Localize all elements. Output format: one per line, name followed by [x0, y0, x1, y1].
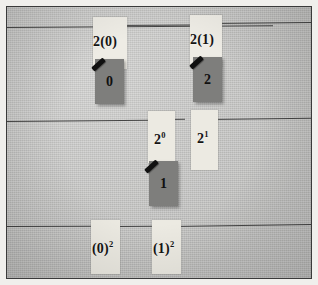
label-two-pow-one-exponent: 1: [204, 129, 208, 139]
ledge-line-middle-left: [6, 120, 151, 122]
card-result-zero-value: 0: [106, 75, 113, 89]
label-two-times-zero: 2(0): [93, 35, 117, 49]
screenshot-root: 2(0) 0 2(1) 2 20 21 1: [0, 0, 318, 285]
ledge-line-bottom-center: [117, 226, 155, 227]
ledge-line-bottom-right: [173, 224, 312, 227]
photo-frame: 2(0) 0 2(1) 2 20 21 1: [6, 6, 312, 279]
ledge-line-top-right: [212, 22, 312, 24]
label-two-times-one: 2(1): [190, 33, 214, 47]
card-result-two-value: 2: [204, 73, 211, 87]
label-two-pow-zero: 20: [154, 133, 166, 147]
label-two-pow-zero-exponent: 0: [161, 130, 165, 140]
label-zero-squared-exponent: 2: [109, 239, 113, 249]
label-two-times-one-text: 2(1): [190, 32, 214, 47]
label-two-times-zero-text: 2(0): [93, 34, 117, 49]
label-zero-squared-base: (0): [92, 241, 109, 256]
label-one-squared: (1)2: [153, 242, 174, 256]
label-one-squared-base: (1): [153, 241, 170, 256]
label-two-pow-one: 21: [197, 132, 209, 146]
label-one-squared-exponent: 2: [170, 239, 174, 249]
ledge-line-middle-right: [208, 118, 312, 120]
card-result-one-value: 1: [160, 177, 167, 191]
ledge-line-bottom-left: [6, 226, 95, 227]
label-zero-squared: (0)2: [92, 242, 113, 256]
